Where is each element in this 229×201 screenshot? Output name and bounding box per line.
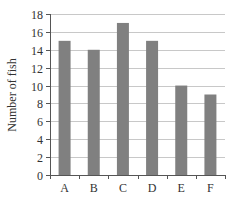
y-tick-label: 10 xyxy=(31,80,43,94)
bar-e xyxy=(175,86,187,175)
x-category-label: C xyxy=(119,181,127,195)
y-tick-label: 8 xyxy=(37,97,43,111)
y-tick-label: 18 xyxy=(31,8,43,22)
bar-c xyxy=(117,23,129,175)
bar-d xyxy=(146,41,158,175)
y-tick-label: 6 xyxy=(37,115,43,129)
y-tick-label: 0 xyxy=(37,169,43,183)
x-category-label: D xyxy=(148,181,157,195)
y-tick-label: 16 xyxy=(31,26,43,40)
bar-b xyxy=(88,50,100,175)
x-category-label: B xyxy=(90,181,98,195)
x-axis-ticks: ABCDEF xyxy=(51,175,226,195)
y-tick-label: 14 xyxy=(31,44,43,58)
gridlines xyxy=(50,15,225,158)
x-category-label: E xyxy=(178,181,185,195)
bar-f xyxy=(204,95,216,176)
y-axis-ticks: 024681012141618 xyxy=(31,8,50,183)
axes xyxy=(50,14,225,176)
y-tick-label: 2 xyxy=(37,151,43,165)
x-category-label: F xyxy=(207,181,214,195)
bar-chart: 024681012141618 ABCDEF Number of fish xyxy=(0,0,229,201)
y-axis-title: Number of fish xyxy=(5,58,19,131)
bars xyxy=(59,23,217,175)
y-tick-label: 4 xyxy=(37,133,43,147)
x-category-label: A xyxy=(60,181,69,195)
bar-a xyxy=(59,41,71,175)
y-tick-label: 12 xyxy=(31,62,43,76)
